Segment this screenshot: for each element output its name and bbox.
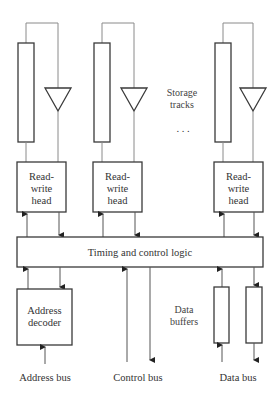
storage-track-3: [215, 43, 231, 142]
data-buffers-label-2: buffers: [170, 316, 198, 327]
head-1-label-1: Read-: [29, 171, 55, 182]
address-decoder-label-2: decoder: [28, 317, 62, 328]
control-bus-label: Control bus: [113, 372, 162, 383]
head-1-label-2: write: [31, 183, 53, 194]
head-1-label-3: head: [32, 195, 53, 206]
storage-column-1: Read- write head: [17, 23, 71, 237]
amplifier-triangle-1: [45, 88, 71, 111]
storage-tracks-label-1: Storage: [167, 87, 198, 98]
head-2-label-2: write: [107, 183, 129, 194]
head-3-label-1: Read-: [226, 171, 252, 182]
address-decoder-label-1: Address: [27, 305, 61, 316]
timing-control-label: Timing and control logic: [88, 247, 193, 258]
memory-architecture-diagram: Read- write head Read- write head Read- …: [0, 0, 278, 396]
address-bus-label: Address bus: [19, 372, 71, 383]
data-bus-label: Data bus: [219, 372, 256, 383]
head-3-label-2: write: [228, 183, 250, 194]
head-2-label-1: Read-: [105, 171, 131, 182]
storage-track-1: [18, 43, 34, 142]
data-buffer-out: [246, 287, 262, 343]
ellipsis: . . .: [176, 123, 189, 134]
storage-column-2: Read- write head: [93, 23, 147, 237]
amplifier-triangle-2: [121, 88, 147, 111]
storage-track-2: [94, 43, 110, 142]
storage-tracks-label-2: tracks: [170, 99, 194, 110]
data-buffer-in: [214, 287, 229, 343]
head-2-label-3: head: [108, 195, 129, 206]
amplifier-triangle-3: [240, 88, 266, 111]
data-buffers-label-1: Data: [175, 304, 194, 315]
head-3-label-3: head: [229, 195, 250, 206]
storage-column-3: Read- write head: [214, 23, 266, 237]
